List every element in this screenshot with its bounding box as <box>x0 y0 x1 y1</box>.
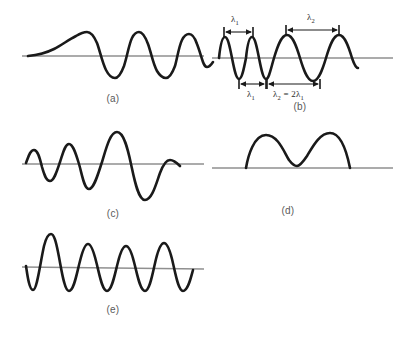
lambda2-equation-subscript: 1 <box>300 94 303 101</box>
lambda2-equation-text: = 2λ <box>281 89 300 99</box>
panel-b: λ1 λ2 λ1 λ2 = 2λ1 (b) <box>210 10 395 102</box>
waveform-e-svg <box>18 228 208 308</box>
panel-c: (c) <box>18 120 208 210</box>
panel-d-caption: (d) <box>258 205 318 216</box>
lambda1-top-label: λ1 <box>231 14 239 26</box>
panel-e: (e) <box>18 228 208 308</box>
lambda1-bottom-subscript: 1 <box>252 94 255 101</box>
panel-b-caption: (b) <box>270 101 330 112</box>
panel-a-caption: (a) <box>18 93 208 104</box>
dimension-lambda1-top <box>224 27 253 37</box>
lambda2-top-label: λ2 <box>307 12 315 24</box>
waveform-e-path <box>26 234 193 291</box>
lambda1-bottom-label: λ1 <box>247 89 255 101</box>
waveform-a-path <box>28 32 213 78</box>
panel-e-caption: (e) <box>18 304 208 315</box>
lambda2-equation-label: λ2 = 2λ1 <box>273 89 304 101</box>
waveform-c-svg <box>18 120 208 210</box>
lambda2-top-subscript: 2 <box>312 17 315 24</box>
panel-a: (a) <box>18 10 208 90</box>
waveform-a-svg <box>18 10 208 90</box>
waveform-c-path <box>26 132 180 200</box>
waveform-d-svg <box>210 120 395 210</box>
panel-c-caption: (c) <box>18 208 208 219</box>
wave-figure: (a) <box>0 0 399 337</box>
lambda1-top-subscript: 1 <box>236 19 239 26</box>
waveform-d-path <box>246 133 350 168</box>
dimension-lambda1-bottom <box>239 79 266 89</box>
dimension-lambda2-top <box>286 25 339 35</box>
baseline-e <box>22 267 204 269</box>
panel-d: (d) <box>210 120 395 210</box>
